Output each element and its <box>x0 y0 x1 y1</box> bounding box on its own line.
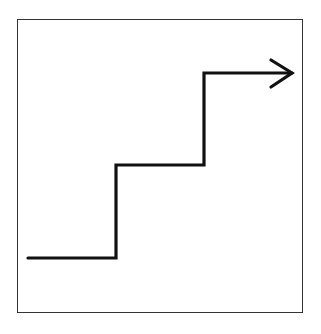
staircase-arrow-icon <box>0 0 321 334</box>
staircase-path <box>28 73 292 258</box>
